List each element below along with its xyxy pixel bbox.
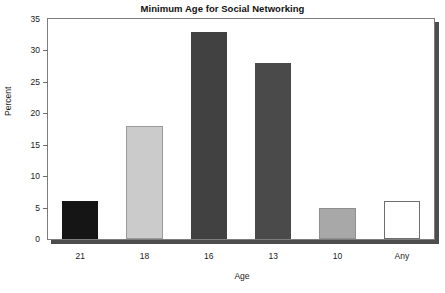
bar — [62, 201, 98, 239]
x-axis-tick-label: 10 — [333, 251, 342, 261]
y-axis-tick-mark — [43, 50, 48, 51]
bar-chart: Minimum Age for Social Networking Percen… — [0, 0, 445, 293]
chart-title: Minimum Age for Social Networking — [0, 3, 445, 14]
y-axis-tick-label: 35 — [31, 15, 40, 24]
x-axis-tick-label: 18 — [140, 251, 149, 261]
y-axis-tick-label: 10 — [31, 172, 40, 181]
bar — [384, 201, 420, 239]
y-axis-tick-mark — [43, 208, 48, 209]
y-axis-tick-mark — [43, 145, 48, 146]
y-axis-label: Percent — [3, 102, 13, 116]
y-axis-tick-label: 15 — [31, 140, 40, 149]
bar — [319, 208, 355, 239]
x-axis-tick-label: 16 — [204, 251, 213, 261]
bar — [255, 63, 291, 239]
bar — [191, 32, 227, 239]
x-axis-tick-label: 13 — [268, 251, 277, 261]
x-axis-label: Age — [47, 271, 437, 281]
x-axis-tick-label: Any — [395, 251, 410, 261]
y-axis-tick-mark — [43, 82, 48, 83]
y-axis-tick-label: 25 — [31, 78, 40, 87]
plot-area: 05101520253035 — [48, 19, 434, 239]
y-axis-tick-mark — [43, 113, 48, 114]
y-axis-tick-label: 5 — [35, 203, 40, 212]
y-axis-tick-label: 30 — [31, 46, 40, 55]
x-axis-tick-label: 21 — [75, 251, 84, 261]
y-axis-tick-label: 0 — [35, 235, 40, 244]
y-axis-tick-label: 20 — [31, 109, 40, 118]
y-axis-tick-mark — [43, 176, 48, 177]
bar — [126, 126, 162, 239]
